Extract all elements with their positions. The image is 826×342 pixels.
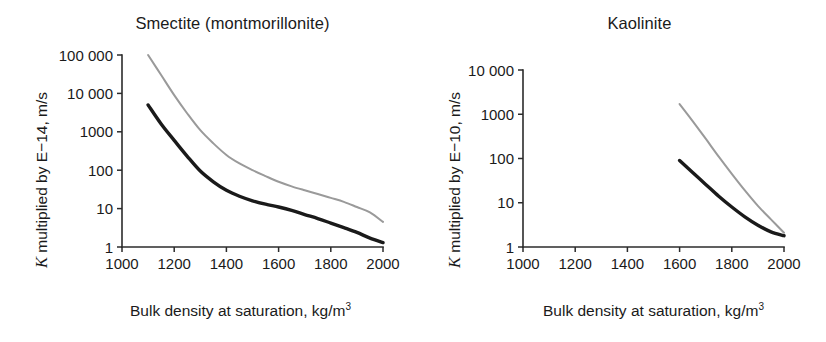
y-tick-label: 100 bbox=[88, 162, 113, 179]
x-axis-label-smectite: Bulk density at saturation, kg/m3 bbox=[0, 302, 447, 320]
x-tick-label: 1800 bbox=[715, 255, 748, 272]
y-axis-label-symbol: K bbox=[32, 257, 51, 268]
x-axis-label-superscript: 3 bbox=[345, 301, 351, 312]
y-tick-label: 1 bbox=[506, 239, 514, 256]
y-axis-label-text: multiplied by E−10, m/s bbox=[446, 92, 463, 257]
x-tick-label: 2000 bbox=[366, 255, 399, 272]
series-lower-bound bbox=[680, 161, 784, 236]
y-tick-label: 100 000 bbox=[59, 47, 113, 64]
chart-title-smectite: Smectite (montmorillonite) bbox=[0, 14, 439, 33]
x-tick-label: 1200 bbox=[158, 255, 191, 272]
chart-title-kaolinite: Kaolinite bbox=[413, 14, 826, 33]
x-tick-label: 1400 bbox=[611, 255, 644, 272]
chart-panel-smectite: Smectite (montmorillonite) K multiplied … bbox=[0, 0, 413, 342]
y-tick-label: 10 bbox=[96, 200, 113, 217]
x-axis-label-text: Bulk density at saturation, kg/m bbox=[130, 302, 345, 319]
x-tick-label: 1200 bbox=[559, 255, 592, 272]
x-tick-label: 1000 bbox=[105, 255, 138, 272]
y-axis-label-text: multiplied by E−14, m/s bbox=[33, 92, 50, 257]
y-axis-label-smectite: K multiplied by E−14, m/s bbox=[32, 48, 62, 268]
x-axis-label-superscript: 3 bbox=[758, 301, 764, 312]
y-tick-label: 1000 bbox=[481, 106, 514, 123]
x-tick-label: 1800 bbox=[314, 255, 347, 272]
series-upper-bound bbox=[680, 104, 784, 233]
x-tick-label: 1600 bbox=[262, 255, 295, 272]
x-tick-label: 1400 bbox=[210, 255, 243, 272]
y-axis-label-symbol: K bbox=[445, 257, 464, 268]
x-tick-label: 1000 bbox=[506, 255, 539, 272]
y-axis-label-kaolinite: K multiplied by E−10, m/s bbox=[445, 48, 475, 268]
figure-container: Smectite (montmorillonite) K multiplied … bbox=[0, 0, 826, 342]
y-tick-label: 100 bbox=[489, 150, 514, 167]
series-lower-bound bbox=[148, 105, 383, 243]
y-tick-label: 1000 bbox=[80, 123, 113, 140]
y-tick-label: 1 bbox=[105, 239, 113, 256]
y-tick-label: 10 bbox=[497, 194, 514, 211]
x-axis-label-text: Bulk density at saturation, kg/m bbox=[543, 302, 758, 319]
x-tick-label: 1600 bbox=[663, 255, 696, 272]
y-tick-label: 10 000 bbox=[67, 85, 113, 102]
chart-panel-kaolinite: Kaolinite K multiplied by E−10, m/s 1101… bbox=[413, 0, 826, 342]
x-tick-label: 2000 bbox=[767, 255, 800, 272]
series-upper-bound bbox=[148, 55, 383, 222]
x-axis-label-kaolinite: Bulk density at saturation, kg/m3 bbox=[413, 302, 826, 320]
